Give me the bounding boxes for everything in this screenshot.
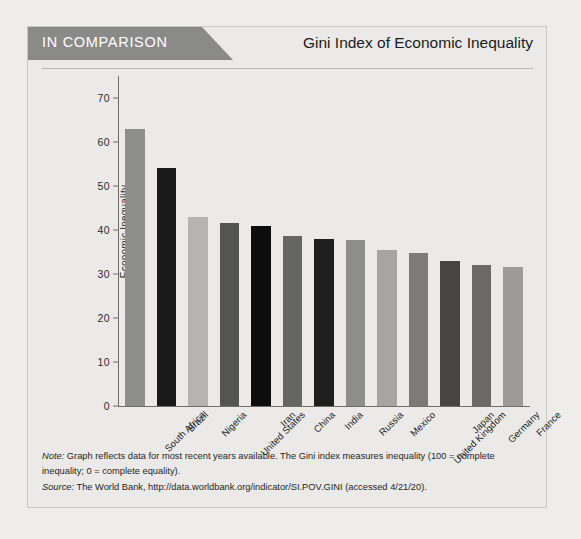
y-tick-label: 40 [98,224,110,236]
bar [472,265,492,406]
x-axis-line [118,406,530,407]
source-text: The World Bank, http://data.worldbank.or… [74,482,427,492]
source-line: Source: The World Bank, http://data.worl… [42,480,533,495]
x-tick-label: Mexico [408,409,437,438]
bar [440,261,460,406]
x-tick-label: China [312,409,338,435]
page-title: Gini Index of Economic Inequality [303,34,533,52]
y-tick-label: 20 [98,312,110,324]
bar [503,267,523,406]
bar [188,217,208,406]
bar [377,250,397,406]
bar [346,240,366,406]
note-text: Graph reflects data for most recent year… [42,451,495,476]
y-axis-ticks: 010203040506070 [82,76,118,406]
tab-label: IN COMPARISON [42,34,168,50]
y-tick-label: 0 [104,400,110,412]
bar [251,226,271,406]
bar [157,168,177,406]
screenshot-page: IN COMPARISON Gini Index of Economic Ine… [0,0,581,539]
title-divider [42,68,533,69]
note-line: Note: Graph reflects data for most recen… [42,449,533,480]
y-tick-label: 70 [98,92,110,104]
bar [220,223,240,406]
x-tick-label: Russia [376,409,405,438]
y-tick-label: 10 [98,356,110,368]
bar [125,129,145,406]
y-tick-label: 30 [98,268,110,280]
y-tick-label: 50 [98,180,110,192]
figure-footnotes: Note: Graph reflects data for most recen… [42,449,533,495]
figure-header: IN COMPARISON Gini Index of Economic Ine… [28,27,546,60]
chart-plot-area: Economic Inequality 010203040506070 Sout… [28,76,546,466]
x-tick-label: Brazil [185,409,210,434]
y-tick-label: 60 [98,136,110,148]
x-tick-label: India [342,409,365,432]
bar [409,253,429,406]
bar-series [119,76,529,406]
bar [314,239,334,406]
bar [283,236,303,406]
note-label: Note: [42,451,64,461]
source-label: Source: [42,482,74,492]
x-tick-label: Nigeria [219,409,249,439]
figure-container: IN COMPARISON Gini Index of Economic Ine… [27,26,547,508]
